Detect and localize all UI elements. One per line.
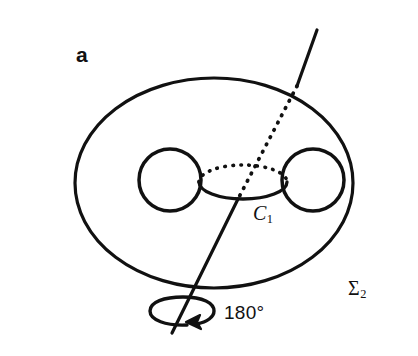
surface-sigma2-label-subscript: 2 — [360, 287, 367, 301]
curve-c1-front-arc — [199, 182, 287, 199]
right-hole-outline — [282, 149, 344, 211]
curve-c1-back-arc — [199, 165, 287, 182]
curve-c1-label-base: C — [253, 202, 266, 224]
outer-surface-outline — [75, 78, 353, 288]
figure-panel-a: a C1 Σ2 180° — [0, 0, 418, 356]
left-hole-outline — [139, 149, 201, 211]
curve-c1-label: C1 — [253, 203, 273, 225]
rotation-angle-label: 180° — [224, 303, 265, 322]
surface-sigma2-label: Σ2 — [348, 278, 366, 300]
panel-letter-label: a — [76, 44, 88, 65]
surface-sigma2-label-base: Σ — [348, 277, 360, 299]
rotation-axis-upper-segment — [297, 30, 317, 86]
curve-c1-label-subscript: 1 — [266, 212, 273, 226]
genus-two-surface-diagram — [0, 0, 418, 356]
